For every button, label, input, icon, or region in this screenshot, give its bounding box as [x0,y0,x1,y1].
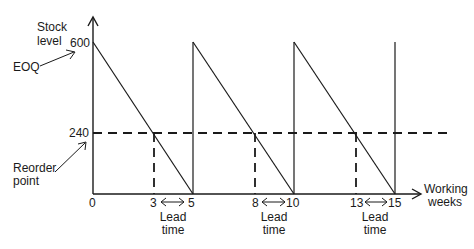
eoq-pointer-icon [40,50,75,66]
lead-time-1-line2: time [153,223,193,237]
y-axis-label-line2: level [37,34,62,48]
eoq-label: EOQ [13,60,40,74]
reorder-time-lines [154,133,356,194]
y-axis-label-line1: Stock [37,20,67,34]
x-tick-0: 0 [89,196,96,210]
lead-time-1-line1: Lead [153,210,193,224]
stock-sawtooth [93,42,395,194]
y-tick-600: 600 [70,36,90,50]
lead-time-2-line1: Lead [254,210,294,224]
reorder-label-line1: Reorder [13,161,56,175]
reorder-label-line2: point [13,174,39,188]
x-tick-5: 5 [188,196,195,210]
lead-time-2-line2: time [254,223,294,237]
reorder-pointer-icon [55,142,86,172]
x-tick-10: 10 [286,196,299,210]
x-tick-8: 8 [252,196,259,210]
y-tick-240: 240 [69,126,89,140]
x-axis-label-line1: Working [424,182,468,196]
lead-time-3-line1: Lead [355,210,395,224]
x-tick-13: 13 [350,196,363,210]
lead-time-3-line2: time [355,223,395,237]
x-tick-3: 3 [150,196,157,210]
x-axis-label-line2: weeks [428,195,462,209]
x-tick-15: 15 [388,196,401,210]
